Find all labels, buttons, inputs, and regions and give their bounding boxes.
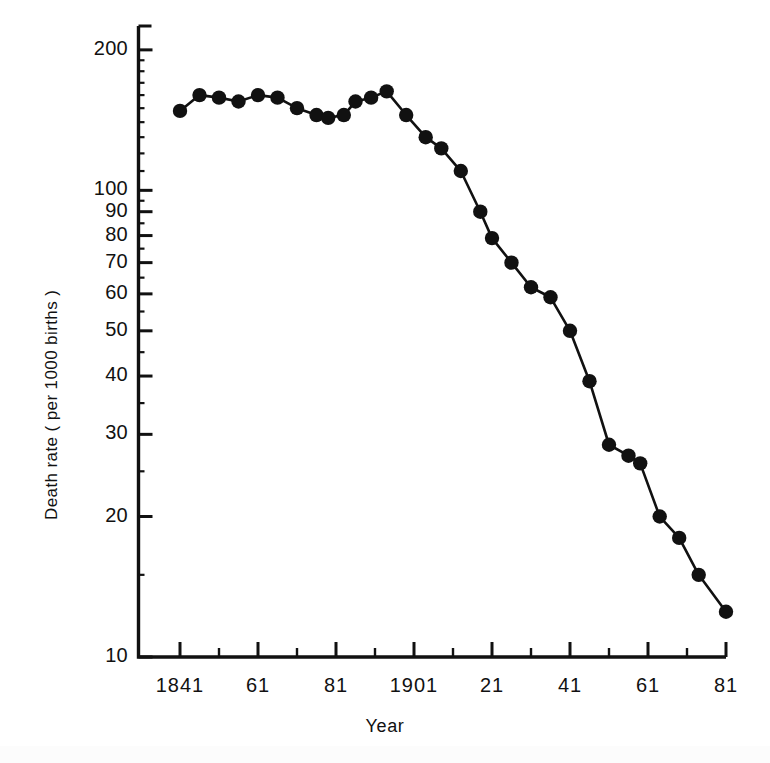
y-tick-label: 70 [60, 250, 128, 273]
y-tick-label: 60 [60, 281, 128, 304]
data-point [251, 88, 265, 102]
data-point [672, 531, 686, 545]
data-point [582, 374, 596, 388]
data-point [434, 141, 448, 155]
data-point [485, 231, 499, 245]
data-point [212, 90, 226, 104]
x-tick-label: 1841 [135, 674, 225, 697]
page-edge-artifact [0, 746, 770, 763]
data-point [192, 88, 206, 102]
x-axis-title: Year [0, 716, 770, 737]
data-point [173, 104, 187, 118]
y-tick-label: 30 [60, 421, 128, 444]
y-tick-label: 50 [60, 318, 128, 341]
data-point [504, 255, 518, 269]
data-point [692, 568, 706, 582]
x-tick-label: 21 [447, 674, 537, 697]
data-point [473, 205, 487, 219]
chart-figure: Death rate ( per 1000 births ) 200100908… [0, 0, 770, 763]
data-point [563, 324, 577, 338]
data-point [380, 84, 394, 98]
data-point [419, 130, 433, 144]
data-point [290, 101, 304, 115]
y-tick-label: 80 [60, 223, 128, 246]
x-tick-label: 61 [213, 674, 303, 697]
data-point [364, 90, 378, 104]
data-point [454, 164, 468, 178]
data-point [719, 605, 733, 619]
data-point [543, 290, 557, 304]
data-point [270, 90, 284, 104]
x-tick-label: 81 [291, 674, 381, 697]
y-tick-label: 90 [60, 199, 128, 222]
y-tick-label: 200 [60, 37, 128, 60]
data-line-infant-death-rate [180, 91, 726, 611]
data-point [653, 509, 667, 523]
y-axis-major-ticks [139, 50, 153, 657]
y-tick-label: 10 [60, 644, 128, 667]
data-point-markers [173, 84, 733, 619]
y-tick-label: 20 [60, 504, 128, 527]
data-point [348, 94, 362, 108]
x-tick-label: 41 [525, 674, 615, 697]
data-point [337, 108, 351, 122]
data-point [321, 111, 335, 125]
x-tick-label: 61 [603, 674, 693, 697]
data-point [399, 108, 413, 122]
y-axis-title: Death rate ( per 1000 births ) [42, 290, 62, 520]
y-tick-label: 100 [60, 177, 128, 200]
x-tick-label: 81 [681, 674, 770, 697]
data-point [524, 280, 538, 294]
axis-lines [139, 26, 727, 657]
data-point [633, 456, 647, 470]
data-point [231, 94, 245, 108]
x-tick-label: 1901 [369, 674, 459, 697]
data-point [602, 438, 616, 452]
y-tick-label: 40 [60, 363, 128, 386]
